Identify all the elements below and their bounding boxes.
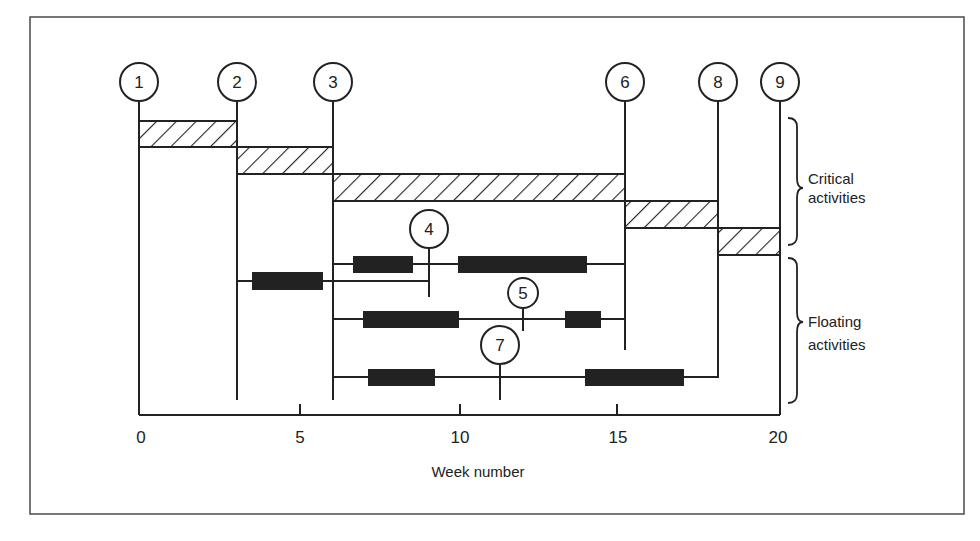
- x-tick-label: 10: [451, 428, 470, 447]
- node-4: 4: [410, 210, 448, 248]
- critical-label-line2: activities: [808, 189, 866, 206]
- node-1: 1: [120, 63, 158, 101]
- svg-text:8: 8: [713, 73, 722, 92]
- svg-text:1: 1: [134, 73, 143, 92]
- brace-icon: [788, 258, 803, 403]
- x-axis-title: Week number: [431, 463, 524, 480]
- float-bar: [585, 369, 684, 386]
- critical-brace: Critical activities: [788, 118, 866, 245]
- floating-brace: Floating activities: [788, 258, 866, 403]
- critical-bar-3-6: [333, 174, 625, 201]
- node-5: 5: [508, 278, 538, 308]
- node-2: 2: [218, 63, 256, 101]
- floating-activities: [237, 256, 718, 386]
- critical-bar-8-9: [718, 228, 780, 255]
- critical-label-line1: Critical: [808, 170, 854, 187]
- node-6: 6: [606, 63, 644, 101]
- float-bar: [353, 256, 413, 273]
- network-bar-chart: 1 2 3 4 5 6 7 8: [0, 0, 980, 541]
- floating-label-line2: activities: [808, 336, 866, 353]
- node-9: 9: [761, 63, 799, 101]
- x-tick-label: 15: [609, 428, 628, 447]
- x-tick-label: 20: [769, 428, 788, 447]
- svg-text:4: 4: [424, 220, 433, 239]
- critical-bar-2-3: [237, 147, 333, 174]
- float-bar: [363, 311, 459, 328]
- float-bar: [565, 311, 601, 328]
- float-bar: [368, 369, 435, 386]
- critical-bar-1-2: [139, 121, 237, 147]
- x-axis: 0 5 10 15 20 Week number: [136, 400, 787, 480]
- x-tick-label: 5: [295, 428, 304, 447]
- x-tick-label: 0: [136, 428, 145, 447]
- svg-text:3: 3: [328, 73, 337, 92]
- float-bar: [458, 256, 587, 273]
- svg-text:5: 5: [518, 284, 527, 303]
- brace-icon: [788, 118, 803, 245]
- critical-activities: [139, 121, 780, 255]
- svg-text:9: 9: [775, 73, 784, 92]
- svg-text:6: 6: [620, 73, 629, 92]
- svg-text:2: 2: [232, 73, 241, 92]
- float-bar: [252, 272, 323, 290]
- floating-label-line1: Floating: [808, 313, 861, 330]
- node-7: 7: [481, 326, 519, 364]
- svg-text:7: 7: [495, 336, 504, 355]
- node-8: 8: [699, 63, 737, 101]
- node-3: 3: [314, 63, 352, 101]
- critical-bar-6-8: [625, 201, 718, 228]
